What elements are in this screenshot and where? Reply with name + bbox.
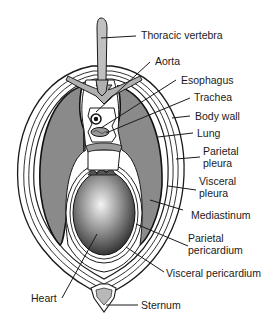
- label-parietal-pleura-2: pleura: [203, 157, 232, 169]
- label-parietal-pericardium-2: pericardium: [188, 244, 243, 256]
- label-visceral-pericardium: Visceral pericardium: [166, 267, 261, 279]
- label-visceral-pleura: Visceral: [199, 175, 236, 187]
- label-body-wall: Body wall: [195, 110, 240, 122]
- label-visceral-pleura-2: pleura: [199, 187, 228, 199]
- label-aorta: Aorta: [155, 55, 180, 67]
- label-mediastinum: Mediastinum: [191, 209, 251, 221]
- esophagus-shape: [91, 128, 109, 137]
- heart-shape: [73, 171, 135, 255]
- label-trachea: Trachea: [194, 91, 232, 103]
- sternum-shape: [91, 284, 116, 312]
- label-thoracic-vertebra: Thoracic vertebra: [141, 29, 223, 41]
- label-parietal-pericardium: Parietal: [188, 232, 224, 244]
- label-parietal-pleura: Parietal: [203, 145, 239, 157]
- label-heart: Heart: [31, 292, 57, 304]
- label-esophagus: Esophagus: [181, 74, 234, 86]
- label-lung: Lung: [197, 127, 221, 139]
- trachea-esophagus-block: [88, 108, 116, 142]
- label-sternum: Sternum: [141, 299, 181, 311]
- thorax-cross-section-diagram: Thoracic vertebra Aorta Esophagus Trache…: [0, 0, 275, 323]
